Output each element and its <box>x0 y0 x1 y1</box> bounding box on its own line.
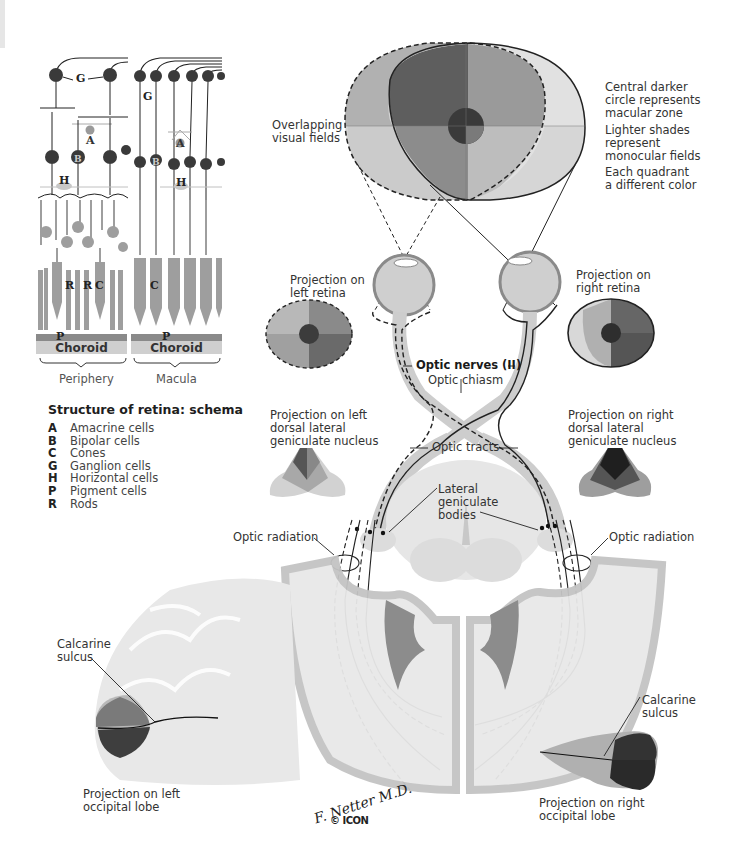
svg-text:G: G <box>76 72 85 85</box>
periphery-choroid-label: Choroid <box>36 341 127 355</box>
right-occipital-label: Projection on right occipital lobe <box>539 797 645 823</box>
svg-text:R: R <box>83 279 93 292</box>
retina-periphery-panel <box>36 58 131 367</box>
right-lgn-label: Projection on right dorsal lateral genic… <box>568 409 676 448</box>
periphery-caption: Periphery <box>59 373 114 386</box>
right-retina-label: Projection on right retina <box>576 269 651 295</box>
overlapping-fields-label: Overlapping visual fields <box>272 119 342 145</box>
svg-text:R: R <box>65 279 75 292</box>
lateral-geniculate-label: Lateral geniculate bodies <box>438 483 498 522</box>
svg-text:B: B <box>152 157 160 167</box>
retina-legend: Structure of retina: schema AAmacrine ce… <box>48 402 243 510</box>
svg-text:G: G <box>143 90 152 103</box>
copyright-mark: © ICON <box>330 815 368 826</box>
left-retina-label: Projection on left retina <box>290 274 365 300</box>
legend-label: Amacrine cells <box>70 422 154 435</box>
optic-nerves-label: Optic nerves (II) <box>416 359 521 372</box>
right-lgn-projection <box>579 448 651 497</box>
left-hemisphere-medial <box>95 579 300 785</box>
legend-label: Pigment cells <box>70 485 147 498</box>
legend-key: R <box>48 498 70 511</box>
calcarine-right-label: Calcarine sulcus <box>642 694 696 720</box>
quadrant-color-note: Each quadrant a different color <box>605 166 697 192</box>
legend-label: Cones <box>70 447 105 460</box>
overlapping-visual-fields <box>345 40 585 206</box>
legend-row: CCones <box>48 447 243 460</box>
left-lgn-label: Projection on left dorsal lateral genicu… <box>270 409 378 448</box>
calcarine-left-label: Calcarine sulcus <box>57 638 111 664</box>
macular-zone-note: Central darker circle represents macular… <box>605 81 701 120</box>
legend-key: P <box>48 485 70 498</box>
right-eye <box>500 252 560 312</box>
svg-text:C: C <box>150 279 159 292</box>
legend-title: Structure of retina: schema <box>48 402 243 417</box>
optic-radiation-right-label: Optic radiation <box>609 531 694 544</box>
legend-row: AAmacrine cells <box>48 422 243 435</box>
left-retina-projection <box>266 300 352 368</box>
macula-choroid-label: Choroid <box>131 341 222 355</box>
legend-row: PPigment cells <box>48 485 243 498</box>
svg-text:B: B <box>74 154 82 164</box>
legend-label: Rods <box>70 498 98 511</box>
legend-row: RRods <box>48 498 243 511</box>
left-occipital-label: Projection on left occipital lobe <box>83 788 180 814</box>
svg-text:A: A <box>85 134 95 147</box>
left-lgn-projection <box>270 448 346 497</box>
retina-macula-panel <box>131 58 225 367</box>
optic-chiasm-label: Optic chiasm <box>428 374 503 387</box>
svg-text:A: A <box>175 137 185 150</box>
svg-text:H: H <box>59 174 69 187</box>
right-retina-projection <box>568 299 654 367</box>
optic-tracts-label: Optic tracts <box>432 441 499 454</box>
left-eye <box>374 255 434 315</box>
optic-radiation-left-label: Optic radiation <box>233 531 318 544</box>
svg-text:H: H <box>176 176 186 189</box>
svg-text:C: C <box>95 279 104 292</box>
monocular-fields-note: Lighter shades represent monocular field… <box>605 124 701 163</box>
legend-key: C <box>48 447 70 460</box>
macula-caption: Macula <box>156 373 197 386</box>
legend-key: A <box>48 422 70 435</box>
